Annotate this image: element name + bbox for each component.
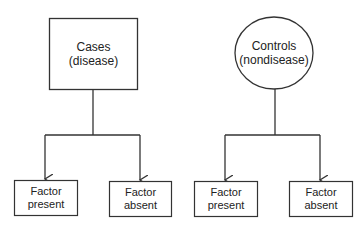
- factor-text: Factor: [305, 186, 336, 199]
- controls-subtitle: (nondisease): [239, 53, 308, 67]
- absent-text: absent: [304, 199, 337, 212]
- factor-text: Factor: [210, 186, 241, 199]
- cases-factor-absent-label: Factor absent: [109, 181, 172, 217]
- cases-subtitle: (disease): [69, 54, 118, 68]
- absent-text: absent: [124, 199, 157, 212]
- factor-text: Factor: [125, 186, 156, 199]
- present-text: present: [28, 198, 65, 211]
- controls-label: Controls (nondisease): [235, 17, 313, 89]
- controls-factor-present-label: Factor present: [194, 181, 258, 217]
- present-text: present: [208, 199, 245, 212]
- cases-label: Cases (disease): [49, 18, 138, 90]
- controls-title: Controls: [252, 39, 297, 53]
- cases-title: Cases: [76, 40, 110, 54]
- controls-factor-absent-label: Factor absent: [289, 181, 353, 217]
- cases-factor-present-label: Factor present: [14, 180, 78, 216]
- controls-connectors: [225, 89, 320, 180]
- cases-connectors: [45, 89, 140, 180]
- factor-text: Factor: [30, 185, 61, 198]
